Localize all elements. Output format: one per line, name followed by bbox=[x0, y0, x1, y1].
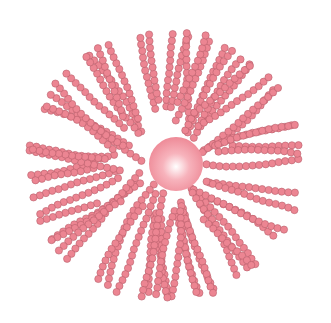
bead bbox=[216, 163, 223, 170]
bead bbox=[167, 50, 174, 57]
bead bbox=[97, 163, 104, 170]
bead bbox=[177, 208, 184, 215]
bead bbox=[183, 36, 190, 43]
bead bbox=[63, 70, 70, 77]
bead bbox=[138, 41, 145, 48]
bead bbox=[95, 155, 102, 162]
bead bbox=[265, 74, 272, 81]
bead bbox=[37, 217, 44, 224]
bead bbox=[294, 150, 301, 157]
bead bbox=[280, 226, 287, 233]
bead bbox=[158, 196, 165, 203]
bead bbox=[43, 103, 50, 110]
bead bbox=[228, 47, 235, 54]
bead bbox=[242, 163, 249, 170]
bead bbox=[172, 273, 179, 280]
bead bbox=[246, 184, 253, 191]
bead bbox=[275, 159, 282, 166]
bead bbox=[282, 158, 289, 165]
bead bbox=[175, 247, 182, 254]
bead bbox=[150, 248, 157, 255]
bead bbox=[152, 105, 159, 112]
bead bbox=[164, 77, 171, 84]
bead bbox=[203, 161, 210, 168]
bead bbox=[183, 43, 190, 50]
bead bbox=[30, 194, 37, 201]
bead bbox=[151, 77, 158, 84]
bead bbox=[183, 63, 190, 70]
bead bbox=[153, 222, 160, 229]
bead bbox=[269, 160, 276, 167]
bead bbox=[146, 31, 153, 38]
bead bbox=[153, 90, 160, 97]
bead bbox=[165, 226, 172, 233]
bead bbox=[167, 220, 174, 227]
bead bbox=[170, 91, 177, 98]
bead bbox=[160, 245, 167, 252]
bead bbox=[173, 267, 180, 274]
core-sphere bbox=[149, 137, 203, 191]
bead bbox=[52, 80, 59, 87]
bead bbox=[129, 252, 136, 259]
bead bbox=[228, 147, 235, 154]
bead bbox=[77, 168, 84, 175]
bead bbox=[233, 271, 240, 278]
bead bbox=[167, 57, 174, 64]
bead bbox=[246, 130, 253, 137]
bead bbox=[169, 286, 176, 293]
bead bbox=[166, 63, 173, 70]
bead bbox=[235, 146, 242, 153]
bead bbox=[113, 288, 120, 295]
bead bbox=[278, 123, 285, 130]
bead bbox=[256, 161, 263, 168]
bead bbox=[183, 49, 190, 56]
bead bbox=[173, 78, 180, 85]
bead bbox=[248, 261, 255, 268]
bead bbox=[167, 104, 174, 111]
bead bbox=[291, 189, 298, 196]
bead bbox=[193, 288, 200, 295]
bead bbox=[285, 189, 292, 196]
bead bbox=[64, 170, 71, 177]
bead bbox=[37, 210, 44, 217]
bead bbox=[182, 250, 189, 257]
bead bbox=[110, 165, 117, 172]
bead bbox=[32, 177, 39, 184]
bead bbox=[156, 271, 163, 278]
bead bbox=[272, 200, 279, 207]
bead bbox=[99, 172, 106, 179]
bead bbox=[178, 227, 185, 234]
bead bbox=[83, 53, 90, 60]
bead bbox=[62, 151, 69, 158]
bead bbox=[155, 96, 162, 103]
bead bbox=[241, 146, 248, 153]
bead bbox=[272, 124, 279, 131]
bead bbox=[141, 280, 148, 287]
bead bbox=[116, 167, 123, 174]
bead bbox=[105, 275, 112, 282]
bead bbox=[184, 257, 191, 264]
bead bbox=[154, 284, 161, 291]
bead bbox=[152, 83, 159, 90]
bead bbox=[249, 162, 256, 169]
bead bbox=[105, 41, 112, 48]
bead bbox=[171, 280, 178, 287]
bead bbox=[138, 293, 145, 300]
bead bbox=[252, 185, 259, 192]
bead bbox=[254, 146, 261, 153]
bead bbox=[166, 70, 173, 77]
bead bbox=[163, 90, 170, 97]
bead bbox=[101, 155, 108, 162]
bead bbox=[157, 258, 164, 265]
bead bbox=[261, 147, 268, 154]
bead bbox=[270, 232, 277, 239]
bead bbox=[55, 150, 62, 157]
bead bbox=[265, 186, 272, 193]
bead bbox=[162, 288, 169, 295]
bead bbox=[223, 163, 230, 170]
bead bbox=[103, 164, 110, 171]
bead bbox=[155, 216, 162, 223]
bead bbox=[152, 235, 159, 242]
bead bbox=[200, 38, 207, 45]
bead bbox=[156, 265, 163, 272]
